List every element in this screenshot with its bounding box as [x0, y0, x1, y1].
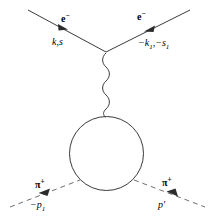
incoming-electron-label: e− — [61, 14, 70, 24]
outgoing-pion-momentum-label: p′ — [158, 200, 165, 210]
incoming-electron-charge-sign: − — [65, 12, 69, 20]
incoming-pion-momentum-base: −p — [30, 199, 42, 210]
outgoing-electron-arrow — [144, 26, 155, 33]
outgoing-electron-momentum-base: −k — [138, 37, 149, 48]
feynman-diagram: e− k,s e− −k1,−s1 π+ −p1 π+ p′ — [0, 0, 216, 218]
outgoing-electron-momentum-label: −k1,−s1 — [138, 38, 169, 48]
outgoing-electron-charge-sign: − — [141, 10, 145, 18]
feynman-diagram-canvas — [0, 0, 216, 218]
incoming-electron-arrow — [58, 24, 68, 31]
incoming-electron-momentum-label: k,s — [52, 37, 63, 47]
outgoing-electron-momentum-mid: ,−s — [153, 37, 166, 48]
outgoing-electron-label: e− — [137, 12, 146, 22]
incoming-pion-momentum-sub: 1 — [42, 205, 46, 213]
incoming-pion-momentum-label: −p1 — [30, 200, 45, 210]
outgoing-electron-momentum-sub-2: 1 — [166, 43, 170, 51]
incoming-pion-charge-sign: + — [40, 178, 44, 186]
photon-propagator-wavy-line — [103, 53, 110, 117]
outgoing-pion-charge-sign: + — [167, 176, 171, 184]
outgoing-pion-label: π+ — [162, 178, 172, 188]
incoming-pion-label: π+ — [35, 180, 45, 190]
pion-loop-circle — [70, 117, 144, 191]
